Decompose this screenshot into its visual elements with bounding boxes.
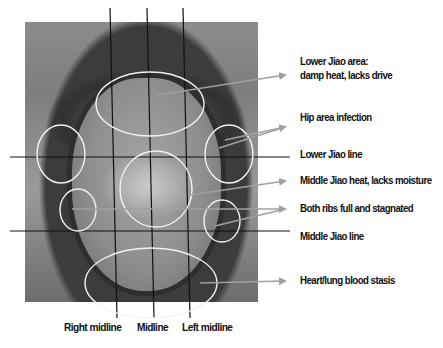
arrow-hip-left xyxy=(225,127,285,140)
arrow-heart-lung xyxy=(200,281,285,283)
left-midline-line xyxy=(183,8,190,318)
arrow-middle-jiao xyxy=(190,181,285,195)
label-middle-jiao-line: Middle Jiao line xyxy=(300,229,364,243)
right-midline-line xyxy=(110,8,117,318)
label-lower-jiao-area: Lower Jiao area: damp heat, lacks drive xyxy=(300,54,392,82)
middle-jiao-ellipse xyxy=(120,151,192,227)
label-lower-jiao-line1: Lower Jiao area: xyxy=(300,54,392,68)
right-hip-ellipse xyxy=(37,125,85,183)
label-lower-jiao-line: Lower Jiao line xyxy=(300,147,362,161)
label-middle-jiao-heat: Middle Jiao heat, lacks moisture xyxy=(300,173,432,187)
heart-lung-ellipse xyxy=(85,248,217,318)
arrow-ribs-left xyxy=(215,209,285,226)
left-hip-ellipse xyxy=(205,125,253,183)
right-rib-ellipse xyxy=(60,189,96,231)
midline-line xyxy=(147,8,154,318)
label-right-midline: Right midline xyxy=(64,321,121,333)
label-midline: Midline xyxy=(137,321,168,333)
label-hip-area: Hip area infection xyxy=(300,110,372,124)
label-heart-lung: Heart/lung blood stasis xyxy=(300,273,395,287)
label-lower-jiao-line2: damp heat, lacks drive xyxy=(300,68,392,82)
label-left-midline: Left midline xyxy=(182,321,232,333)
arrow-lower-jiao xyxy=(158,75,285,95)
label-both-ribs: Both ribs full and stagnated xyxy=(300,201,413,215)
